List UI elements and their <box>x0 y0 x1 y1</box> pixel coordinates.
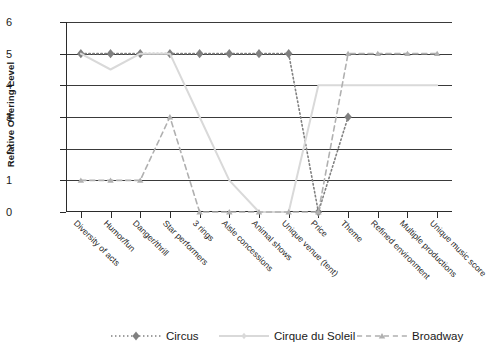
x-tick-mark-0 <box>81 212 82 218</box>
gridline-4 <box>67 85 452 86</box>
x-tick-mark-2 <box>140 212 141 218</box>
legend-swatch-0 <box>110 330 162 342</box>
y-tick-label-5: 5 <box>0 48 12 59</box>
gridline-2 <box>67 149 452 150</box>
y-tick-label-3: 3 <box>0 112 12 123</box>
y-tick-label-2: 2 <box>0 143 12 154</box>
y-tick-label-0: 0 <box>0 207 12 218</box>
legend-item-1[interactable]: Cirque du Soleil <box>218 330 355 342</box>
x-tick-mark-3 <box>170 212 171 218</box>
x-axis-label-12: Unique music score <box>428 218 488 278</box>
x-tick-mark-9 <box>348 212 349 218</box>
y-tick-label-4: 4 <box>0 80 12 91</box>
x-tick-mark-6 <box>259 212 260 218</box>
x-tick-mark-7 <box>289 212 290 218</box>
gridline-3 <box>67 117 452 118</box>
x-axis-label-8: Price <box>309 218 330 239</box>
x-tick-mark-4 <box>200 212 201 218</box>
x-tick-mark-12 <box>437 212 438 218</box>
x-tick-mark-8 <box>318 212 319 218</box>
legend-label-2: Broadway <box>412 330 463 342</box>
x-axis-label-5: Aisle concessions <box>220 218 275 273</box>
legend-swatch-2 <box>356 330 408 342</box>
y-tick-mark-0 <box>60 212 66 213</box>
x-axis-label-11: Multiple productions <box>398 218 459 279</box>
x-tick-mark-5 <box>229 212 230 218</box>
legend-item-0[interactable]: Circus <box>110 330 199 342</box>
x-axis-label-9: Theme <box>339 218 365 244</box>
gridline-5 <box>67 54 452 55</box>
plot-area <box>66 22 452 212</box>
y-tick-label-6: 6 <box>0 17 12 28</box>
legend-label-0: Circus <box>166 330 199 342</box>
legend-swatch-1 <box>218 330 270 342</box>
chart-legend: CircusCirque du SoleilBroadway <box>0 330 470 354</box>
x-tick-mark-11 <box>407 212 408 218</box>
legend-item-2[interactable]: Broadway <box>356 330 463 342</box>
x-tick-mark-10 <box>378 212 379 218</box>
x-axis-label-4: 3 rings <box>191 218 216 243</box>
gridline-6 <box>67 22 452 23</box>
x-axis-label-7: Unique venue (tent) <box>280 218 340 278</box>
legend-label-1: Cirque du Soleil <box>274 330 355 342</box>
gridline-1 <box>67 180 452 181</box>
y-tick-label-1: 1 <box>0 175 12 186</box>
x-tick-mark-1 <box>111 212 112 218</box>
